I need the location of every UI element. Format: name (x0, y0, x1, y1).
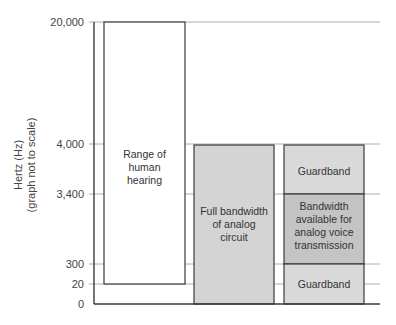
svg-text:Full bandwidth: Full bandwidth (200, 205, 268, 217)
tick-20000: 20,000 (50, 16, 84, 28)
guardband-top-label: Guardband (298, 165, 351, 177)
guardband-bottom-label: Guardband (298, 278, 351, 290)
axis-title-line2: (graph not to scale) (25, 118, 37, 213)
tick-4000: 4,000 (56, 138, 84, 150)
svg-text:transmission: transmission (295, 239, 354, 251)
svg-text:Guardband: Guardband (298, 165, 351, 177)
tick-3400: 3,400 (56, 188, 84, 200)
svg-text:available for: available for (296, 213, 353, 225)
svg-text:analog voice: analog voice (295, 226, 354, 238)
svg-text:of analog: of analog (212, 218, 255, 230)
y-tick-labels: 20,000 4,000 3,400 300 20 0 (50, 16, 84, 310)
svg-text:hearing: hearing (127, 174, 162, 186)
y-axis-title: Hertz (Hz) (graph not to scale) (12, 118, 37, 213)
tick-300: 300 (66, 258, 84, 270)
svg-text:human: human (128, 161, 160, 173)
tick-0: 0 (78, 298, 84, 310)
tick-20: 20 (72, 278, 84, 290)
svg-text:Range of: Range of (123, 148, 166, 160)
axis-title-line1: Hertz (Hz) (12, 140, 24, 190)
bandwidth-diagram: 20,000 4,000 3,400 300 20 0 Hertz (Hz) (… (0, 0, 396, 325)
human-hearing-label: Range of human hearing (123, 148, 166, 186)
svg-text:Guardband: Guardband (298, 278, 351, 290)
svg-text:circuit: circuit (220, 231, 248, 243)
svg-text:Bandwidth: Bandwidth (299, 200, 348, 212)
voice-bandwidth-label: Bandwidth available for analog voice tra… (295, 200, 354, 251)
